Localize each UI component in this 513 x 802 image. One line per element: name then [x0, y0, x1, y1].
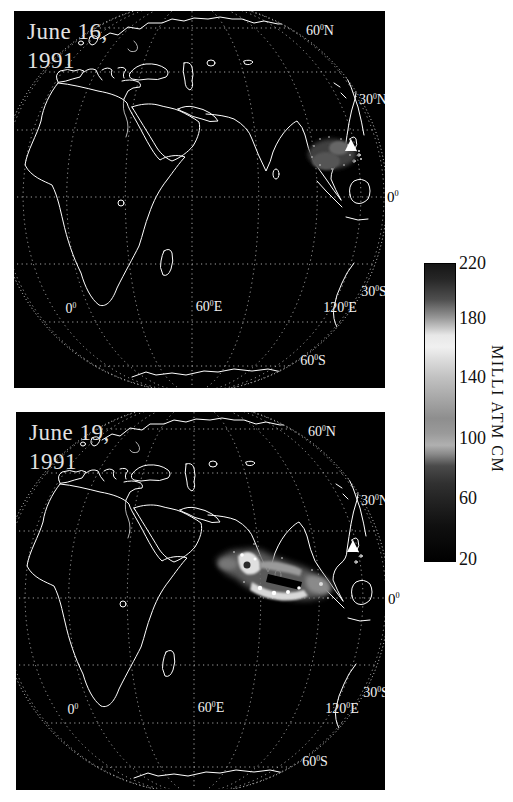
lat-label-60s: 600S [300, 353, 326, 370]
date-label: June 16, 1991 [27, 17, 108, 76]
lat-label-60s: 600S [302, 754, 328, 771]
lon-label-120e: 1200E [325, 701, 358, 718]
lat-label-30s: 300S [363, 685, 385, 702]
colorbar-tick-20: 20 [459, 549, 503, 570]
map-panel-june19: June 19, 1991 600N 300N 300S 600S 00 600… [16, 412, 385, 790]
colorbar-tick-180: 180 [459, 308, 503, 329]
date-label: June 19, 1991 [29, 418, 110, 477]
lat-label-30n: 300N [361, 493, 385, 510]
equator-label-june16: 00 [387, 189, 399, 206]
colorbar-unit-label: MILLI ATM CM [488, 345, 506, 473]
colorbar-tick-220: 220 [459, 253, 503, 274]
lat-label-60n: 600N [306, 23, 334, 40]
date-line1: June 19, [29, 420, 110, 445]
date-line2: 1991 [29, 449, 77, 474]
volcano-marker-icon [347, 540, 359, 552]
lon-label-0: 00 [68, 702, 79, 719]
lon-label-60e: 600E [196, 299, 222, 316]
lon-label-0: 00 [66, 301, 77, 318]
lat-label-30n: 300N [359, 92, 385, 109]
equator-label-june19: 00 [388, 591, 400, 608]
colorbar-gradient [424, 263, 456, 562]
lon-label-60e: 600E [198, 700, 224, 717]
colorbar-tick-60: 60 [459, 488, 503, 509]
lat-label-30s: 300S [361, 284, 385, 301]
map-panel-june16: June 16, 1991 600N 300N 300S 600S 00 600… [14, 11, 385, 388]
lon-label-120e: 1200E [323, 300, 356, 317]
figure: June 16, 1991 600N 300N 300S 600S 00 600… [0, 0, 513, 802]
lat-label-60n: 600N [308, 424, 336, 441]
so2-plume-june19 [216, 543, 332, 600]
date-line2: 1991 [27, 48, 75, 73]
so2-plume-june16 [308, 136, 362, 170]
date-line1: June 16, [27, 19, 108, 44]
